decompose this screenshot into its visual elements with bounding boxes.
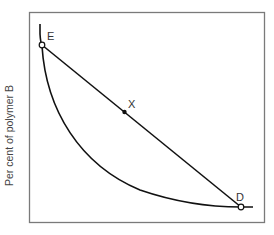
phase-diagram xyxy=(0,0,274,235)
point-x-marker xyxy=(122,110,126,114)
point-d-label: D xyxy=(236,192,244,203)
y-axis-label: Per cent of polymer B xyxy=(2,85,16,186)
point-e-label: E xyxy=(47,31,54,42)
point-d-marker xyxy=(238,204,244,210)
binodal-curve xyxy=(40,24,253,207)
point-e-marker xyxy=(39,42,45,48)
plot-frame xyxy=(30,13,265,223)
point-x-label: X xyxy=(128,99,135,110)
tie-line xyxy=(42,45,241,207)
